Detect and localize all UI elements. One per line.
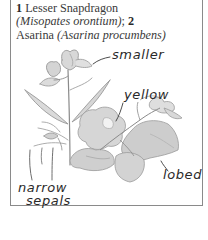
label-sepals: sepals [26, 193, 71, 208]
leader-smaller [93, 57, 110, 64]
label-lobed: lobed [163, 167, 202, 182]
label-smaller: smaller [112, 47, 164, 62]
label-yellow: yellow [124, 87, 169, 102]
